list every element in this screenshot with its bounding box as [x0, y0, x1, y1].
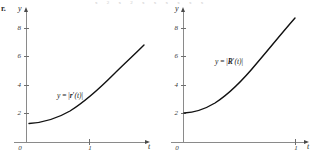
curve-equation-label-left: y = |r′(t)|: [57, 91, 83, 100]
curve-equation-label-right: y = |R′(t)|: [215, 57, 243, 66]
curve-label-bar-close-left: |: [82, 91, 84, 100]
speed-curve-left: [0, 0, 156, 158]
speed-curve-right: [157, 0, 313, 158]
chart-panel-right: y t 2 4 6 8 1 0 y = |R′(t)|: [157, 0, 313, 158]
curve-label-bar-close-right: |: [242, 57, 244, 66]
chart-panel-left: y t 2 4 6 8 1 0 y = |r′(t)|: [0, 0, 156, 158]
